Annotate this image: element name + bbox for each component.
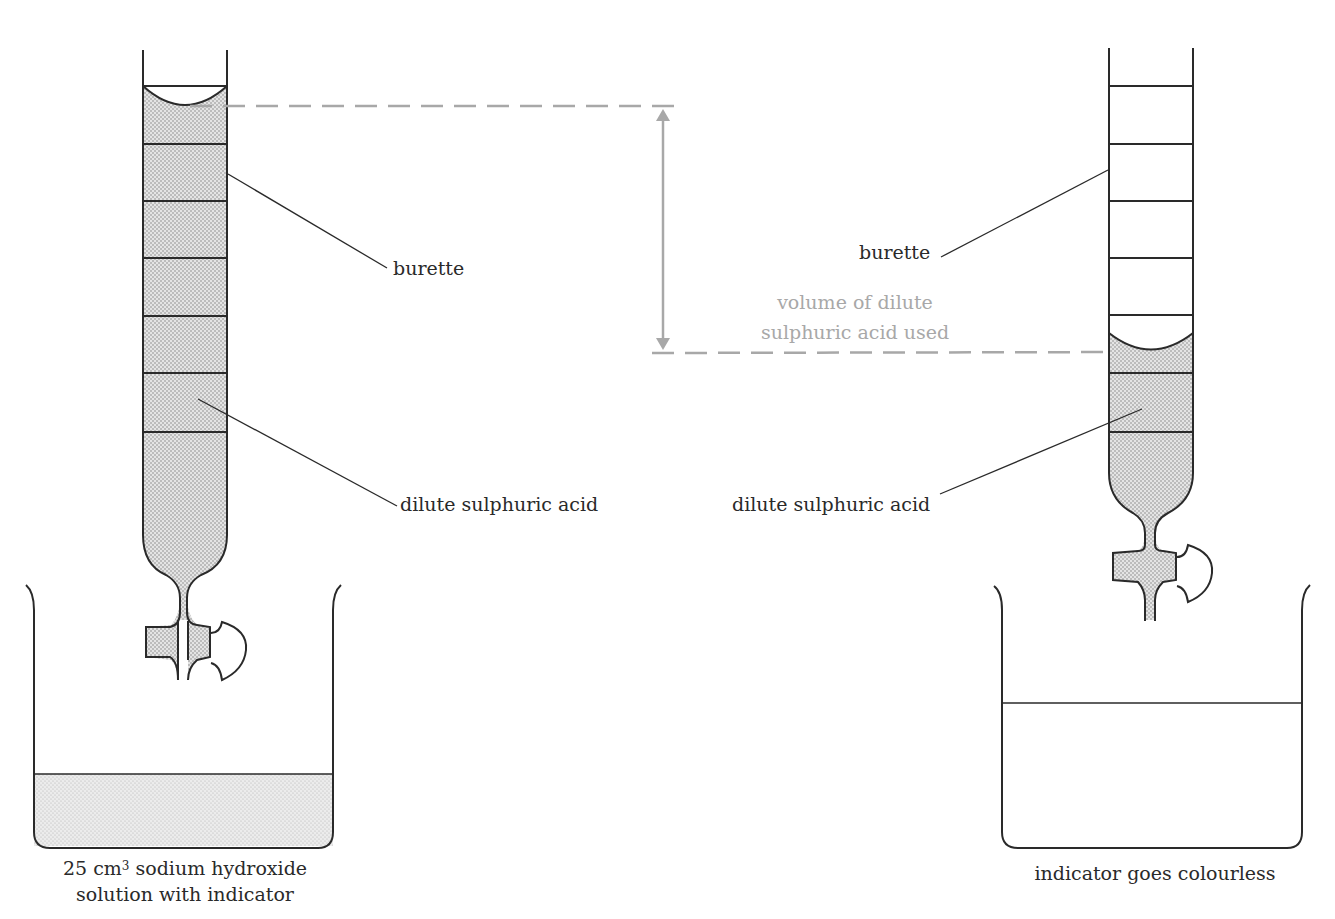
left-beaker-caption: 25 cm3 sodium hydroxide solution with in… xyxy=(10,857,360,905)
volume-label-line2: sulphuric acid used xyxy=(730,321,980,343)
titration-diagram xyxy=(0,0,1335,919)
right-beaker-caption: indicator goes colourless xyxy=(990,862,1320,884)
left-beaker xyxy=(26,585,341,848)
volume-measurement xyxy=(190,106,1140,353)
volume-label-line1: volume of dilute xyxy=(730,291,980,313)
arrow-up-icon xyxy=(656,109,670,121)
left-beaker-caption-line2: solution with indicator xyxy=(10,883,360,905)
right-burette xyxy=(1109,48,1212,621)
volume-label: volume of dilute sulphuric acid used xyxy=(730,291,980,343)
left-burette-label: burette xyxy=(393,257,464,279)
arrow-down-icon xyxy=(656,338,670,350)
right-burette-leader xyxy=(941,170,1108,257)
right-burette-label: burette xyxy=(859,241,930,263)
right-beaker xyxy=(994,585,1310,848)
left-beaker-caption-line1: 25 cm3 sodium hydroxide xyxy=(10,857,360,879)
left-burette-leader xyxy=(228,174,387,268)
left-acid-label: dilute sulphuric acid xyxy=(400,493,598,515)
left-burette xyxy=(143,50,246,680)
right-acid-label: dilute sulphuric acid xyxy=(732,493,930,515)
